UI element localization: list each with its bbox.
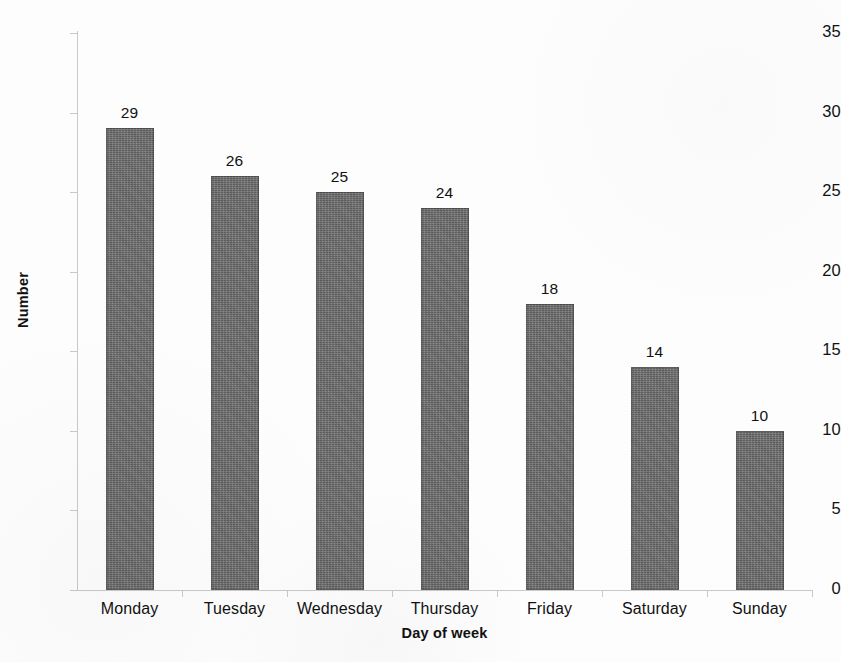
- x-label-wednesday: Wednesday: [287, 600, 392, 618]
- y-tick-label: 5: [779, 499, 841, 518]
- bar-value-monday: 29: [90, 104, 170, 122]
- x-label-friday: Friday: [497, 600, 602, 618]
- x-tick-mark: [287, 591, 288, 597]
- bar-value-saturday: 14: [615, 343, 695, 361]
- y-tick-mark: [70, 33, 77, 34]
- y-axis-title: Number: [15, 255, 31, 345]
- bar-thursday: [421, 208, 469, 590]
- x-tick-mark: [812, 591, 813, 597]
- bar-value-thursday: 24: [405, 184, 485, 202]
- y-tick-mark: [70, 272, 77, 273]
- x-axis-line: [77, 590, 813, 591]
- x-tick-mark: [707, 591, 708, 597]
- y-tick-mark: [70, 510, 77, 511]
- bar-wednesday: [316, 192, 364, 590]
- bar-chart-plot-area: 05101520253035 Number 29262524181410 Mon…: [0, 0, 841, 662]
- y-axis-line: [77, 31, 78, 591]
- x-axis-title: Day of week: [77, 625, 812, 641]
- x-tick-mark: [497, 591, 498, 597]
- chart-page: 05101520253035 Number 29262524181410 Mon…: [0, 0, 841, 662]
- x-tick-mark: [602, 591, 603, 597]
- bar-tuesday: [211, 176, 259, 590]
- x-tick-mark: [392, 591, 393, 597]
- x-label-tuesday: Tuesday: [182, 600, 287, 618]
- x-label-monday: Monday: [77, 600, 182, 618]
- y-tick-mark: [70, 351, 77, 352]
- bar-value-sunday: 10: [720, 407, 800, 425]
- y-tick-label: 15: [779, 340, 841, 359]
- y-tick-mark: [70, 590, 77, 591]
- bar-friday: [526, 304, 574, 590]
- bar-saturday: [631, 367, 679, 590]
- x-label-saturday: Saturday: [602, 600, 707, 618]
- y-tick-label: 20: [779, 261, 841, 280]
- y-tick-label: 25: [779, 181, 841, 200]
- bar-value-friday: 18: [510, 280, 590, 298]
- y-tick-mark: [70, 113, 77, 114]
- bar-value-tuesday: 26: [195, 152, 275, 170]
- y-tick-label: 30: [779, 102, 841, 121]
- y-tick-mark: [70, 192, 77, 193]
- y-tick-label: 0: [779, 579, 841, 598]
- y-tick-mark: [70, 431, 77, 432]
- x-label-sunday: Sunday: [707, 600, 812, 618]
- bar-value-wednesday: 25: [300, 168, 380, 186]
- x-tick-mark: [182, 591, 183, 597]
- bar-sunday: [736, 431, 784, 590]
- bar-monday: [106, 128, 154, 590]
- y-tick-label: 35: [779, 22, 841, 41]
- x-label-thursday: Thursday: [392, 600, 497, 618]
